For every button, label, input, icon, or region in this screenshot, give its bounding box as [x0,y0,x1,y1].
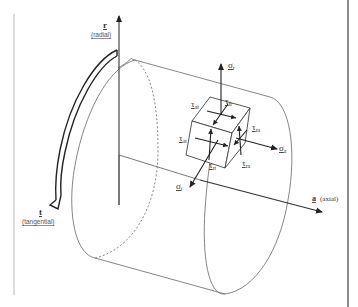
tau-at-side-label: τat [179,133,187,144]
inner-axial-line [119,155,200,180]
tau-ra-side-label: τra [242,158,251,169]
cylinder-top-edge [135,60,270,97]
tau-tr-label: τtr [225,96,232,107]
sigma-a-label: σa [279,143,287,154]
sigma-t-label: σt [176,181,183,192]
cylinder-back-ellipse-solid [72,58,135,258]
axial-axis-symbol: a [312,194,316,203]
axial-axis: a (axial) [200,180,339,212]
cylinder-stress-diagram: r (radial) t (tangential) a (axial) [0,0,358,307]
cylinder-back-ellipse-dashed [95,60,158,258]
tangential-axis-symbol: t [39,207,42,217]
cylinder-bottom-edge [95,258,225,294]
cylinder [72,58,292,294]
axial-axis-label: (axial) [320,195,339,203]
sigma-r-label: σr [228,60,235,71]
tau-ra-top-label: τra [252,122,261,133]
radial-axis-symbol: r [103,20,107,30]
radial-axis-label: (radial) [91,31,111,39]
radial-axis: r (radial) [91,16,200,205]
tangential-axis-label: (tangential) [22,218,55,226]
tau-at-top-label: τat [191,99,199,110]
